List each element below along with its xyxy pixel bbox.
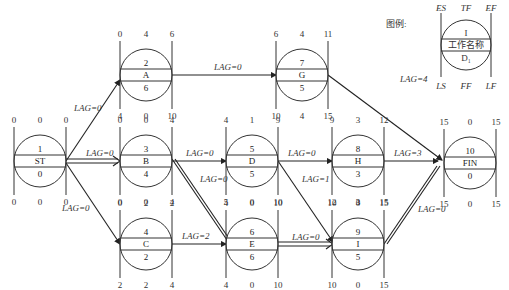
lag-b-d: LAG=0 xyxy=(185,148,214,158)
legend-es: ES xyxy=(435,3,446,13)
node-number: 10 xyxy=(466,146,476,156)
node-number: 6 xyxy=(250,227,255,237)
ls-value: 10 xyxy=(272,111,282,121)
tf-value: 4 xyxy=(144,29,149,39)
ff-value: 0 xyxy=(356,280,361,290)
node-name: I xyxy=(357,239,360,249)
node-name: FIN xyxy=(463,158,478,168)
legend-row-number: I xyxy=(465,28,468,38)
node-number: 4 xyxy=(144,227,149,237)
ef-value: 11 xyxy=(324,29,333,39)
es-value: 15 xyxy=(440,117,450,127)
node-duration: 0 xyxy=(38,169,43,179)
tf-value: 1 xyxy=(250,115,255,125)
es-value: 4 xyxy=(224,198,229,208)
node-name: D xyxy=(249,156,256,166)
legend-title: 图例: xyxy=(386,18,407,29)
ef-value: 12 xyxy=(380,115,389,125)
lag-b-e: LAG=0 xyxy=(199,174,228,184)
es-value: 10 xyxy=(328,198,338,208)
node-h: 8 H 3 9 3 12 12 3 15 xyxy=(328,115,390,207)
lag-c-e: LAG=2 xyxy=(181,231,210,241)
es-value: 0 xyxy=(118,29,123,39)
tf-value: 0 xyxy=(250,198,255,208)
node-duration: 0 xyxy=(468,171,473,181)
legend-row-duration: D₁ xyxy=(461,53,471,63)
ff-value: 0 xyxy=(250,280,255,290)
node-name: H xyxy=(355,156,362,166)
legend-ff: FF xyxy=(460,81,472,91)
lf-value: 10 xyxy=(274,280,284,290)
node-fin: 10 FIN 0 15 0 15 15 0 15 xyxy=(440,117,502,209)
node-name: B xyxy=(143,156,149,166)
legend-lf: LF xyxy=(485,81,497,91)
es-value: 0 xyxy=(12,115,17,125)
legend-tf: TF xyxy=(461,3,472,13)
node-name: C xyxy=(143,239,149,249)
node-i: 9 I 5 10 0 15 10 0 15 xyxy=(328,198,390,290)
node-name: E xyxy=(249,239,255,249)
tf-value: 2 xyxy=(144,198,149,208)
lag-e-i: LAG=0 xyxy=(291,232,320,242)
node-g: 7 G 5 6 4 11 10 4 15 xyxy=(272,29,334,121)
node-duration: 6 xyxy=(144,83,149,93)
node-duration: 6 xyxy=(250,252,255,262)
node-number: 8 xyxy=(356,144,361,154)
node-number: 1 xyxy=(38,144,43,154)
node-d: 5 D 5 4 1 9 5 0 10 xyxy=(224,115,283,207)
es-value: 0 xyxy=(118,198,123,208)
node-number: 9 xyxy=(356,227,361,237)
es-value: 9 xyxy=(330,115,335,125)
node-name: ST xyxy=(35,156,46,166)
lag-st-a: LAG=0 xyxy=(73,103,102,113)
ls-value: 4 xyxy=(224,280,229,290)
ls-value: 10 xyxy=(328,280,338,290)
node-duration: 5 xyxy=(300,83,305,93)
node-duration: 5 xyxy=(356,252,361,262)
ff-value: 0 xyxy=(38,197,43,207)
lag-g-fin: LAG=4 xyxy=(399,74,428,84)
es-value: 0 xyxy=(118,115,123,125)
tf-value: 0 xyxy=(144,115,149,125)
node-duration: 3 xyxy=(356,169,361,179)
tf-value: 0 xyxy=(356,198,361,208)
tf-value: 0 xyxy=(468,117,473,127)
lag-h-fin: LAG=3 xyxy=(393,148,422,158)
tf-value: 4 xyxy=(300,29,305,39)
node-b: 3 B 4 0 0 4 0 0 4 xyxy=(118,115,175,207)
ls-value: 2 xyxy=(118,280,123,290)
node-duration: 4 xyxy=(144,169,149,179)
ef-value: 6 xyxy=(170,29,175,39)
lag-st-b: LAG=0 xyxy=(85,148,114,158)
ef-value: 4 xyxy=(170,115,175,125)
lag-a-g: LAG=0 xyxy=(213,62,242,72)
ff-value: 0 xyxy=(468,199,473,209)
es-value: 4 xyxy=(224,115,229,125)
node-number: 7 xyxy=(300,58,305,68)
ef-value: 2 xyxy=(170,198,175,208)
ls-value: 15 xyxy=(440,199,450,209)
node-number: 3 xyxy=(144,144,149,154)
node-name: G xyxy=(299,70,306,80)
ef-value: 0 xyxy=(64,115,69,125)
node-number: 5 xyxy=(250,144,255,154)
lf-value: 15 xyxy=(492,199,502,209)
network-diagram: LAG=0 LAG=0 LAG=0 LAG=0 LAG=0 LAG=0 LAG=… xyxy=(0,0,509,290)
ef-value: 15 xyxy=(380,198,390,208)
lag-d-i: LAG=1 xyxy=(301,174,330,184)
ef-value: 15 xyxy=(492,117,502,127)
legend-ef: EF xyxy=(485,3,497,13)
lag-d-h: LAG=0 xyxy=(287,148,316,158)
node-name: A xyxy=(143,70,150,80)
lf-value: 0 xyxy=(64,197,69,207)
tf-value: 0 xyxy=(38,115,43,125)
es-value: 6 xyxy=(274,29,279,39)
ff-value: 4 xyxy=(300,111,305,121)
node-c: 4 C 2 0 2 2 2 2 4 xyxy=(118,198,175,290)
link-b-e xyxy=(172,159,230,240)
legend-row-name: 工作名称 xyxy=(448,39,484,50)
tf-value: 3 xyxy=(356,115,361,125)
ls-value: 0 xyxy=(12,197,17,207)
node-duration: 5 xyxy=(250,169,255,179)
ff-value: 2 xyxy=(144,280,149,290)
